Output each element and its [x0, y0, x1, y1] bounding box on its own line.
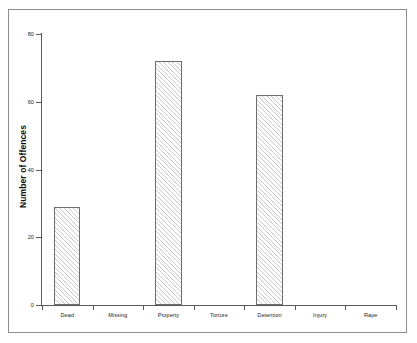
bar-dead[interactable]: [54, 207, 80, 305]
bar-detention[interactable]: [256, 95, 282, 305]
x-tick-label: Torture: [210, 312, 228, 319]
y-tick-label: 60: [28, 99, 34, 105]
y-tick-mark: [36, 102, 42, 103]
y-tick-label: 80: [28, 31, 34, 37]
x-tick-label: Rape: [364, 312, 378, 319]
x-tick-mark: [396, 305, 397, 310]
x-tick-label: Dead: [61, 312, 75, 319]
x-tick-label: Detention: [257, 312, 281, 319]
y-tick-mark: [36, 170, 42, 171]
y-tick-label: 20: [28, 234, 34, 240]
y-tick-label: 40: [28, 167, 34, 173]
y-tick-label: 0: [31, 302, 34, 308]
x-tick-mark: [295, 305, 296, 310]
x-tick-mark: [143, 305, 144, 310]
x-tick-mark: [244, 305, 245, 310]
x-tick-mark: [194, 305, 195, 310]
y-tick-mark: [36, 34, 42, 35]
x-tick-label: Missing: [108, 312, 127, 319]
x-tick-mark: [93, 305, 94, 310]
bar-property[interactable]: [155, 61, 181, 305]
x-tick-label: Property: [158, 312, 180, 319]
bar-chart: 020406080 DeadMissingPropertyTortureDete…: [0, 0, 417, 343]
x-axis-line: [41, 305, 396, 306]
x-tick-label: Injury: [313, 312, 327, 319]
y-tick-mark: [36, 237, 42, 238]
x-tick-mark: [42, 305, 43, 310]
x-tick-mark: [345, 305, 346, 310]
